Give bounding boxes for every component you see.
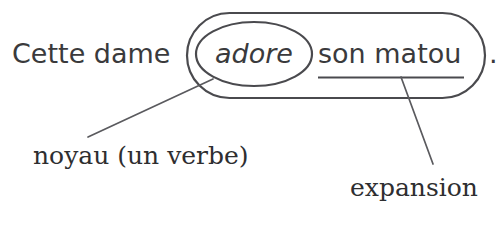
sentence-verb: adore bbox=[215, 38, 293, 69]
sentence-final-punctuation: . bbox=[489, 38, 498, 69]
sentence-subject: Cette dame bbox=[12, 38, 170, 69]
syntax-diagram: Cette dame adore son matou . noyau (un v… bbox=[0, 0, 503, 226]
label-noyau: noyau (un verbe) bbox=[33, 141, 249, 170]
label-expansion: expansion bbox=[350, 173, 478, 202]
expansion-leader-line bbox=[401, 77, 433, 164]
diagram-canvas: Cette dame adore son matou . noyau (un v… bbox=[0, 0, 503, 226]
noyau-leader-line bbox=[88, 79, 213, 137]
sentence-complement: son matou bbox=[318, 38, 461, 69]
